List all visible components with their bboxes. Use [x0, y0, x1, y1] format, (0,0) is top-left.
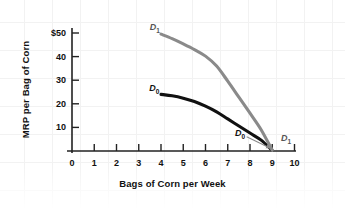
x-axis-tick-label: 5 [181, 158, 186, 168]
y-axis-tick-label: $50 [24, 28, 66, 38]
d1-end-label: D1 [281, 133, 291, 145]
x-axis-tick-label: 1 [92, 158, 97, 168]
x-axis-tick-label: 3 [136, 158, 141, 168]
y-axis-tick-label: 30 [24, 75, 66, 85]
x-axis-tick-label: 4 [158, 158, 163, 168]
x-axis-tick-label: 2 [114, 158, 119, 168]
axes-group [67, 28, 296, 153]
d0-pointer-label: D0 [235, 128, 245, 140]
curve-label-subscript: 0 [156, 88, 160, 95]
x-axis-title: Bags of Corn per Week [0, 178, 345, 189]
x-axis-tick-label: 10 [289, 158, 299, 168]
y-axis-title: MRP per Bag of Corn [20, 20, 31, 160]
x-axis-tick-label: 0 [69, 158, 74, 168]
curve-label-subscript: 1 [156, 27, 160, 34]
y-axis-tick-label: 20 [24, 99, 66, 109]
curve-label-subscript: 1 [287, 138, 291, 145]
chart-figure: MRP per Bag of Corn Bags of Corn per Wee… [0, 0, 345, 210]
d1-top-label: D1 [150, 22, 160, 34]
demand-curves-group [161, 34, 272, 150]
x-axis-tick-label: 7 [225, 158, 230, 168]
y-axis-tick-label: 40 [24, 52, 66, 62]
curve-label-subscript: 0 [241, 133, 245, 140]
x-axis-tick-label: 6 [203, 158, 208, 168]
y-axis-ticks [72, 33, 79, 127]
y-axis-tick-label: 10 [24, 122, 66, 132]
x-axis-tick-label: 8 [247, 158, 252, 168]
d0-top-label: D0 [149, 83, 159, 95]
x-axis-tick-label: 9 [270, 158, 275, 168]
demand-curve-d1 [161, 34, 272, 150]
